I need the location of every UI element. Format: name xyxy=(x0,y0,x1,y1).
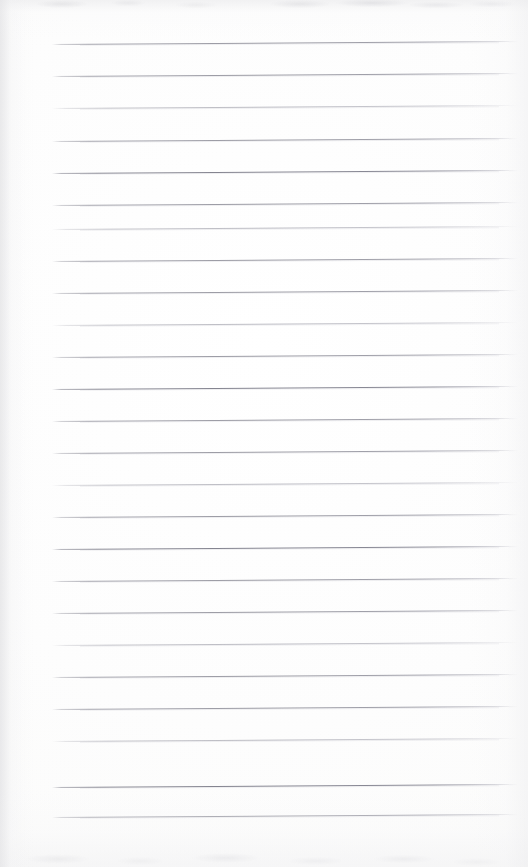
ruled-lines-layer xyxy=(0,0,528,867)
rule-line xyxy=(52,73,518,77)
rule-line xyxy=(52,170,518,174)
rule-line xyxy=(52,354,518,358)
rule-line xyxy=(52,105,518,109)
rule-line xyxy=(52,610,518,614)
rule-line xyxy=(52,41,518,45)
rule-line xyxy=(52,814,518,818)
rule-line xyxy=(52,202,518,206)
rule-line xyxy=(52,138,518,142)
rule-line xyxy=(52,386,518,390)
rule-line xyxy=(52,258,518,262)
rule-line xyxy=(52,226,518,230)
rule-line xyxy=(52,784,518,788)
rule-line xyxy=(52,674,518,678)
rule-line xyxy=(52,738,518,742)
rule-line xyxy=(52,450,518,454)
rule-line xyxy=(52,418,518,422)
rule-line xyxy=(52,482,518,486)
rule-line xyxy=(52,322,518,326)
rule-line xyxy=(52,706,518,710)
rule-line xyxy=(52,514,518,518)
rule-line xyxy=(52,290,518,294)
rule-line xyxy=(52,578,518,582)
scanned-notebook-page: Blank ruled notebook page scan xyxy=(0,0,528,867)
rule-line xyxy=(52,642,518,646)
rule-line xyxy=(52,546,518,550)
